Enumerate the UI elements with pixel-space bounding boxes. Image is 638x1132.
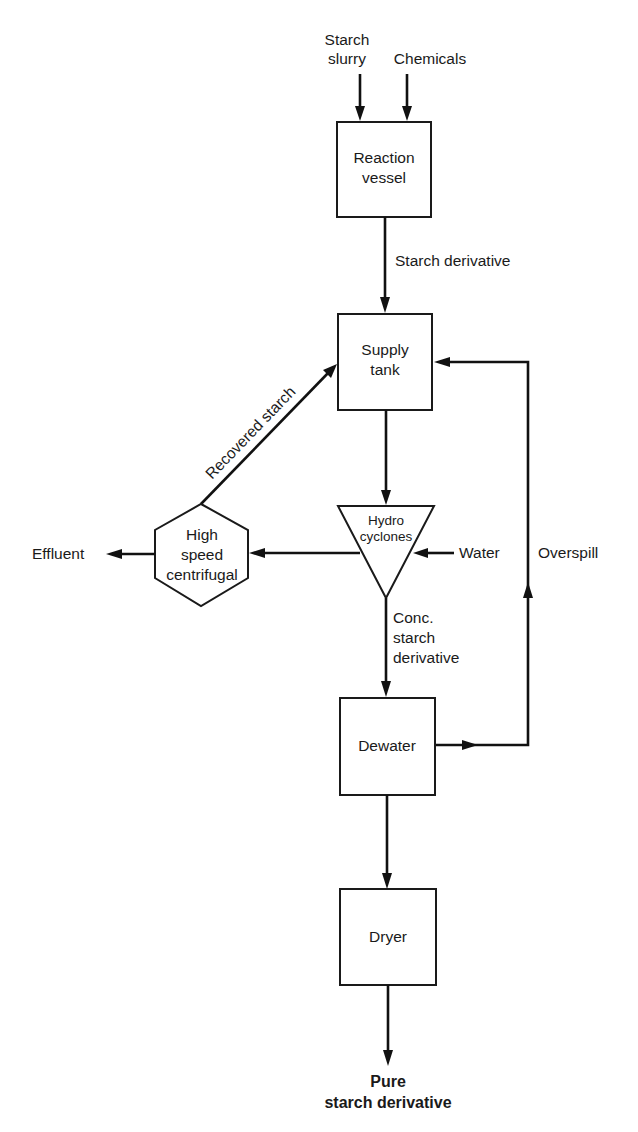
input-water: Water: [459, 544, 500, 561]
node-reaction-vessel: Reaction vessel: [337, 122, 431, 217]
supply-tank-label-line1: Supply: [361, 341, 409, 358]
reaction-vessel-label-line1: Reaction: [353, 149, 414, 166]
starch-derivative-process-diagram: Starch slurry Chemicals Reaction vessel …: [0, 0, 638, 1132]
input-chemicals: Chemicals: [394, 50, 467, 67]
reaction-vessel-label-line2: vessel: [362, 169, 406, 186]
arrow-centrifugal-to-effluent: [106, 549, 155, 559]
node-supply-tank: Supply tank: [338, 314, 432, 410]
flow-label-conc-line3: derivative: [393, 649, 459, 666]
arrow-chemicals-to-reaction: [402, 74, 412, 121]
flow-label-conc-line2: starch: [393, 629, 435, 646]
node-dryer: Dryer: [340, 889, 436, 985]
arrow-hydrocyclones-to-dewater: [381, 598, 391, 697]
output-pure-line1: Pure: [370, 1073, 406, 1090]
input-starch-slurry-line2: slurry: [328, 50, 366, 67]
flow-label-recovered-starch: Recovered starch: [202, 383, 299, 482]
supply-tank-label-line2: tank: [370, 361, 400, 378]
dewater-label: Dewater: [358, 737, 416, 754]
arrow-supply-to-hydrocyclones: [381, 410, 391, 505]
node-dewater: Dewater: [340, 698, 435, 795]
arrow-slurry-to-reaction: [355, 74, 365, 121]
arrow-hydrocyclones-to-centrifugal: [249, 548, 360, 558]
node-high-speed-centrifugal: High speed centrifugal: [155, 504, 248, 606]
output-pure-line2: starch derivative: [324, 1094, 451, 1111]
flow-label-starch-derivative: Starch derivative: [395, 252, 510, 269]
hydrocyclones-label-line2: cyclones: [360, 529, 413, 544]
arrow-reaction-to-supply: [380, 217, 390, 313]
centrifugal-label-line1: High: [186, 526, 218, 543]
centrifugal-label-line2: speed: [181, 546, 223, 563]
arrow-dryer-to-output: [383, 985, 393, 1066]
dryer-label: Dryer: [369, 928, 407, 945]
flow-label-conc-line1: Conc.: [393, 609, 434, 626]
flow-label-overspill: Overspill: [538, 544, 598, 561]
output-effluent: Effluent: [32, 545, 85, 562]
arrow-water-to-hydrocyclones: [413, 548, 454, 558]
hydrocyclones-label-line1: Hydro: [368, 513, 404, 528]
input-starch-slurry-line1: Starch: [325, 31, 370, 48]
arrow-dewater-to-dryer: [382, 795, 392, 889]
centrifugal-label-line3: centrifugal: [166, 566, 238, 583]
arrow-recovered-starch: [201, 364, 337, 504]
